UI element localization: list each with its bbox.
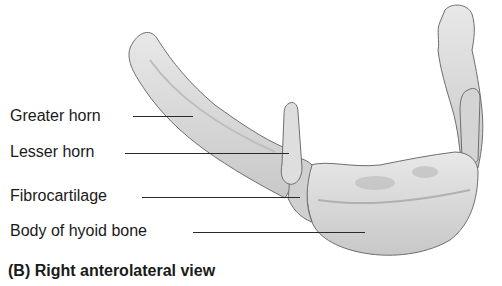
left-lesser-horn-shape [281, 102, 302, 184]
figure-caption: (B) Right anterolateral view [8, 262, 215, 280]
leader-line-body-of-hyoid-bone [193, 232, 365, 233]
label-lesser-horn: Lesser horn [10, 143, 95, 161]
leader-line-lesser-horn [125, 153, 289, 154]
body-fossa-1 [355, 176, 395, 190]
leader-line-fibrocartilage [142, 197, 300, 198]
hyoid-body-shape [307, 152, 478, 255]
label-greater-horn: Greater horn [10, 107, 101, 125]
label-body-of-hyoid-bone: Body of hyoid bone [10, 222, 147, 240]
hyoid-bone-figure: Greater horn Lesser horn Fibrocartilage … [0, 0, 502, 286]
body-fossa-2 [412, 166, 438, 178]
right-lesser-horn-shape [460, 88, 480, 163]
leader-line-greater-horn [133, 116, 193, 117]
label-fibrocartilage: Fibrocartilage [10, 187, 107, 205]
